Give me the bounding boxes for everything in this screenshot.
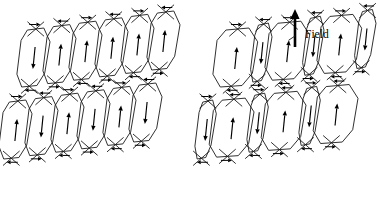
figure-root: Field	[0, 0, 380, 204]
field-label: Field	[305, 28, 329, 40]
magnetic-domain-diagram: Field	[0, 0, 380, 204]
